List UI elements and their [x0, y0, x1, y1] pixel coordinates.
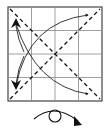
turn-over-symbol — [34, 110, 82, 126]
turn-over-arrowhead-icon — [74, 116, 82, 126]
origami-diagram — [0, 0, 108, 133]
